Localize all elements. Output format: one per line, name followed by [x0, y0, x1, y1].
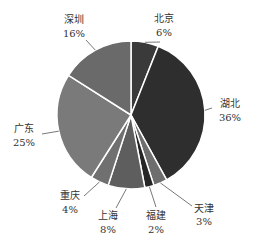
svg-text:2%: 2%	[148, 224, 164, 235]
svg-text:36%: 36%	[219, 112, 241, 123]
svg-text:湖北: 湖北	[220, 98, 240, 109]
svg-text:4%: 4%	[62, 204, 78, 215]
leader-line-2	[160, 183, 192, 206]
svg-text:广东: 广东	[14, 122, 34, 134]
pie-slices	[57, 41, 205, 189]
label-shanghai: 上海 8%	[98, 209, 118, 235]
label-beijing: 北京 6%	[154, 12, 174, 38]
svg-text:北京: 北京	[154, 12, 174, 24]
leader-line-5	[84, 182, 99, 196]
svg-text:上海: 上海	[98, 209, 118, 221]
svg-text:福建: 福建	[146, 209, 166, 221]
label-guangdong: 广东 25%	[13, 122, 35, 148]
leader-line-3	[149, 187, 156, 207]
label-fujian: 福建 2%	[146, 209, 166, 235]
leader-line-6	[42, 131, 59, 134]
svg-text:6%: 6%	[156, 27, 172, 38]
svg-text:重庆: 重庆	[60, 189, 80, 201]
leader-line-1	[205, 108, 212, 110]
svg-text:8%: 8%	[100, 224, 116, 235]
label-shenzhen: 深圳 16%	[63, 14, 85, 39]
label-chongqing: 重庆 4%	[60, 189, 80, 215]
leader-line-4	[116, 189, 126, 208]
pie-chart: 北京 6% 湖北 36% 天津 3% 福建 2% 上海 8% 重庆 4% 广东 …	[0, 0, 259, 247]
svg-text:天津: 天津	[194, 203, 214, 214]
svg-text:深圳: 深圳	[64, 14, 84, 25]
leader-line-7	[86, 40, 95, 50]
svg-text:16%: 16%	[63, 28, 85, 39]
label-tianjin: 天津 3%	[194, 203, 214, 227]
svg-text:25%: 25%	[13, 137, 35, 148]
label-hubei: 湖北 36%	[219, 98, 241, 123]
svg-text:3%: 3%	[196, 216, 212, 227]
